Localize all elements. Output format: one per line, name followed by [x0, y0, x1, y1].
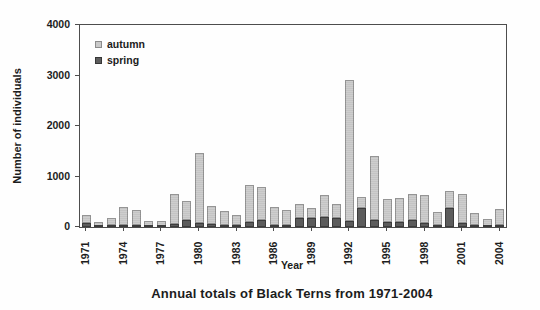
bar-1999 [433, 212, 442, 227]
figure-caption: Annual totals of Black Terns from 1971-2… [79, 286, 505, 301]
bar-segment-autumn-1983 [232, 215, 241, 225]
bar-1997 [408, 194, 417, 227]
bar-1986 [270, 207, 279, 227]
bar-1984 [245, 185, 254, 227]
bar-segment-spring-1994 [370, 220, 379, 227]
bar-1996 [395, 198, 404, 227]
bar-segment-autumn-1987 [282, 210, 291, 225]
bar-segment-autumn-1971 [82, 215, 91, 223]
bar-segment-spring-2003 [483, 225, 492, 227]
bar-segment-autumn-1994 [370, 156, 379, 220]
bar-segment-spring-1981 [207, 224, 216, 227]
bar-segment-spring-1978 [170, 224, 179, 227]
bar-segment-autumn-1975 [132, 210, 141, 225]
autumn-swatch-icon [95, 41, 102, 48]
bar-segment-autumn-1990 [320, 195, 329, 217]
bar-segment-autumn-1988 [295, 204, 304, 218]
bar-segment-autumn-1978 [170, 194, 179, 224]
bar-1985 [257, 187, 266, 227]
bar-segment-spring-2002 [470, 225, 479, 227]
y-axis-title: Number of individuals [11, 46, 25, 206]
bar-segment-autumn-1980 [195, 153, 204, 223]
bar-1979 [182, 201, 191, 227]
bar-segment-autumn-1991 [332, 204, 341, 218]
bar-segment-autumn-1979 [182, 201, 191, 220]
bar-segment-spring-1996 [395, 222, 404, 227]
y-tick-label-1000: 1000 [30, 171, 70, 181]
bar-1983 [232, 215, 241, 227]
bar-segment-autumn-2002 [470, 213, 479, 225]
bar-segment-spring-1987 [282, 225, 291, 227]
legend-label-autumn: autumn [107, 39, 145, 50]
bar-segment-autumn-1984 [245, 185, 254, 222]
bar-segment-autumn-1996 [395, 198, 404, 222]
bar-1987 [282, 210, 291, 227]
bar-2004 [495, 209, 504, 227]
bar-segment-spring-1993 [357, 208, 366, 227]
bar-segment-spring-1977 [157, 225, 166, 227]
bar-segment-autumn-1981 [207, 206, 216, 224]
legend-label-spring: spring [107, 55, 139, 66]
bar-1989 [307, 208, 316, 227]
y-tick-label-2000: 2000 [30, 120, 70, 130]
bar-segment-spring-1972 [94, 225, 103, 227]
bar-2001 [458, 194, 467, 227]
bar-1990 [320, 195, 329, 227]
legend: autumn spring [95, 36, 145, 68]
bar-1980 [195, 153, 204, 227]
bar-segment-spring-1982 [220, 225, 229, 227]
bar-segment-spring-1992 [345, 221, 354, 227]
y-tick-mark-0 [75, 226, 79, 227]
bar-segment-spring-1975 [132, 225, 141, 227]
bar-1976 [144, 221, 153, 227]
bar-1971 [82, 215, 91, 227]
bar-segment-spring-1991 [332, 218, 341, 227]
bar-1988 [295, 204, 304, 227]
bar-segment-spring-1973 [107, 225, 116, 227]
y-tick-mark-2000 [75, 125, 79, 126]
bar-1974 [119, 207, 128, 227]
bar-segment-autumn-1998 [420, 195, 429, 223]
bar-1995 [383, 199, 392, 227]
bar-segment-spring-1988 [295, 218, 304, 227]
bar-segment-spring-2001 [458, 223, 467, 227]
legend-item-spring: spring [95, 52, 145, 68]
bar-segment-autumn-1999 [433, 212, 442, 225]
bar-segment-autumn-2000 [445, 191, 454, 208]
bar-1993 [357, 197, 366, 227]
bar-segment-spring-1997 [408, 220, 417, 227]
y-tick-label-0: 0 [30, 221, 70, 231]
bar-segment-autumn-1992 [345, 80, 354, 221]
bar-segment-spring-1976 [144, 225, 153, 227]
legend-item-autumn: autumn [95, 36, 145, 52]
spring-swatch-icon [95, 57, 102, 64]
bar-2003 [483, 219, 492, 227]
bar-segment-spring-1986 [270, 225, 279, 227]
y-tick-mark-1000 [75, 176, 79, 177]
bar-1973 [107, 218, 116, 227]
y-tick-label-4000: 4000 [30, 19, 70, 29]
bar-1977 [157, 221, 166, 227]
bar-segment-spring-1980 [195, 223, 204, 227]
bar-2000 [445, 191, 454, 227]
bar-1991 [332, 204, 341, 227]
bar-2002 [470, 213, 479, 227]
bar-segment-spring-2000 [445, 208, 454, 227]
bar-1975 [132, 210, 141, 227]
bar-segment-autumn-2004 [495, 209, 504, 225]
black-terns-annual-totals-figure: Number of individuals autumn spring 0100… [0, 0, 540, 310]
bar-1994 [370, 156, 379, 227]
bar-1982 [220, 211, 229, 227]
bar-segment-spring-1979 [182, 220, 191, 227]
bar-segment-autumn-2001 [458, 194, 467, 223]
bar-segment-spring-1984 [245, 222, 254, 227]
bar-segment-autumn-1974 [119, 207, 128, 225]
bar-1972 [94, 222, 103, 227]
bar-segment-autumn-1973 [107, 218, 116, 225]
y-tick-mark-4000 [75, 24, 79, 25]
bar-segment-spring-1990 [320, 217, 329, 227]
bar-1981 [207, 206, 216, 227]
bar-segment-spring-1989 [307, 218, 316, 227]
bar-segment-autumn-1986 [270, 207, 279, 225]
bar-segment-spring-1995 [383, 222, 392, 227]
